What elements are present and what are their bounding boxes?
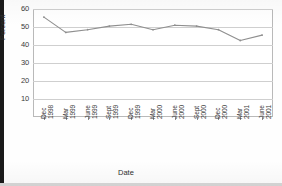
- y-axis-title: Percent: [0, 15, 7, 40]
- data-point: [196, 25, 198, 27]
- data-point: [218, 29, 220, 31]
- x-tick-label: 2000: [222, 105, 229, 119]
- x-tick-label: 1999: [113, 105, 120, 119]
- y-tick-label: 60: [4, 5, 29, 13]
- data-point: [87, 29, 89, 31]
- x-tick-label: 1999: [135, 105, 142, 119]
- data-point: [130, 23, 132, 25]
- series-polyline: [44, 17, 262, 40]
- data-series-line: [33, 9, 273, 117]
- data-point: [108, 25, 110, 27]
- x-tick-label: 2001: [244, 105, 251, 119]
- data-point: [174, 24, 176, 26]
- y-tick-label: 50: [4, 23, 29, 31]
- x-axis-title: Date: [118, 168, 134, 177]
- data-point: [43, 16, 45, 18]
- y-tick-label: 30: [4, 59, 29, 67]
- x-tick-label: 2001: [266, 105, 273, 119]
- x-tick-label: 2000: [157, 105, 164, 119]
- y-tick-label: 10: [4, 95, 29, 103]
- y-tick-label: 40: [4, 41, 29, 49]
- data-point: [152, 29, 154, 31]
- x-tick-label: 2000: [179, 105, 186, 119]
- data-point: [65, 32, 67, 34]
- data-point: [261, 34, 263, 36]
- data-point: [239, 40, 241, 42]
- x-tick-label: 2000: [201, 105, 208, 119]
- x-tick-label: 1998: [48, 105, 55, 119]
- y-tick-label: 20: [4, 77, 29, 85]
- x-tick-label: 1999: [92, 105, 99, 119]
- x-tick-label: 1999: [70, 105, 77, 119]
- bottom-frame-edge: [0, 183, 282, 186]
- line-chart: 102030405060 Percent Dec1998Mar1999June1…: [0, 0, 282, 186]
